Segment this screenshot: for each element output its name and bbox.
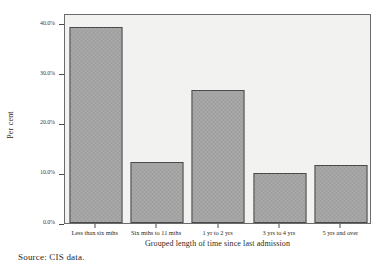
y-axis-tick-label: 30.0% — [40, 70, 55, 77]
y-axis-title: Per cent — [14, 20, 23, 90]
bar-5[interactable] — [315, 165, 368, 223]
source-note: Source: CIS data. — [18, 252, 85, 262]
x-axis-tick-label: Six mths to 11 mths — [131, 228, 181, 237]
y-axis-tick-label: 20.0% — [40, 119, 55, 126]
bar-slot — [188, 15, 249, 223]
figure: Per cent 0.0%10.0%20.0%30.0%40.0% Less t… — [0, 0, 392, 269]
y-axis-tick-label: 10.0% — [40, 169, 55, 176]
y-axis-title-label: Per cent — [6, 90, 15, 160]
bar-slot — [249, 15, 310, 223]
bar-slot — [126, 15, 187, 223]
bar-3[interactable] — [192, 90, 245, 223]
x-axis-tick-label: 5 yrs and over — [322, 228, 358, 237]
x-axis-title: Grouped length of time since last admiss… — [64, 239, 371, 248]
bar-slot — [65, 15, 126, 223]
bar-2[interactable] — [131, 162, 184, 223]
bar-4[interactable] — [253, 173, 306, 223]
x-axis-tick-label: 3 yrs to 4 yrs — [263, 228, 296, 237]
bar-slot — [311, 15, 372, 223]
bar-1[interactable] — [69, 27, 122, 223]
plot-frame — [64, 14, 371, 224]
y-axis-tick-label: 0.0% — [43, 219, 55, 226]
y-axis-tick-label: 40.0% — [40, 20, 55, 27]
plot-area — [65, 15, 370, 223]
x-axis-tick-label: Less than six mths — [71, 228, 118, 237]
x-axis-tick-label: 1 yr to 2 yrs — [202, 228, 232, 237]
